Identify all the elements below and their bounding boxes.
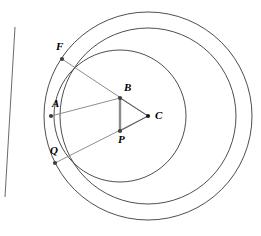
point-label-c: C [155,110,162,121]
point-label-f: F [56,41,63,52]
point-dot-c [146,114,150,118]
geometry-figure: F A B C P Q [0,0,261,236]
point-dot-q [53,161,57,165]
point-dot-a [49,114,53,118]
point-dot-f [60,57,64,61]
point-label-b: B [124,82,131,93]
point-label-p: P [118,134,125,145]
point-dot-b [118,96,122,100]
point-label-q: Q [50,145,58,156]
segment-p-to-c [120,116,148,131]
geometry-canvas [0,0,261,236]
secant-line-fq [5,27,15,197]
point-label-a: A [52,98,59,109]
segment-b-to-c [120,98,148,116]
